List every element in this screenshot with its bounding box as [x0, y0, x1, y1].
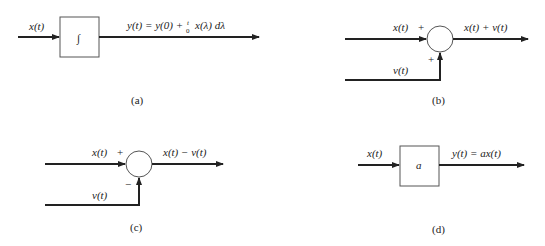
output-label: y(t) = ax(t): [451, 147, 501, 160]
diagram-b-summer: x(t) + v(t) + x(t) + v(t) (b): [345, 21, 528, 107]
input-top-sign: +: [117, 146, 123, 158]
input-label: x(t): [28, 20, 45, 33]
integrand: x(λ) dλ: [194, 19, 225, 32]
input-top-label: x(t): [392, 21, 409, 34]
input-bottom-label: v(t): [393, 64, 409, 77]
summing-junction: [427, 26, 453, 52]
output-label: x(t) + v(t): [463, 21, 508, 34]
diagram-a-integrator: x(t) ∫ y(t) = y(0) + t 0 x(λ) dλ (a): [18, 17, 259, 107]
input-top-label: x(t): [91, 146, 108, 159]
input-bottom-sign: −: [125, 178, 131, 190]
caption-a: (a): [131, 94, 144, 107]
caption-d: (d): [432, 223, 445, 236]
output-label: x(t) − v(t): [162, 146, 207, 159]
integral-lower-limit: 0: [186, 27, 190, 35]
input-bottom-label: v(t): [92, 189, 108, 202]
input-bottom-sign: +: [428, 53, 434, 65]
summing-junction: [126, 151, 152, 177]
diagram-d-gain: x(t) a y(t) = ax(t) (d): [358, 146, 524, 236]
diagram-c-subtractor: x(t) + v(t) − x(t) − v(t) (c): [45, 146, 223, 234]
input-label: x(t): [366, 147, 383, 160]
caption-b: (b): [432, 94, 445, 107]
gain-symbol: a: [416, 159, 422, 171]
block-diagrams: x(t) ∫ y(t) = y(0) + t 0 x(λ) dλ (a) x(t…: [0, 0, 545, 246]
caption-c: (c): [130, 221, 143, 234]
output-label: y(t) = y(0) +: [126, 19, 183, 32]
input-top-sign: +: [418, 21, 424, 33]
integral-upper-limit: t: [187, 19, 190, 27]
